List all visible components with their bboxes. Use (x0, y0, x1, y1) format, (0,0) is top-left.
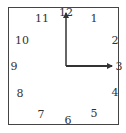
clock-hands (0, 0, 126, 133)
clock: 121234567891011 (0, 0, 126, 133)
